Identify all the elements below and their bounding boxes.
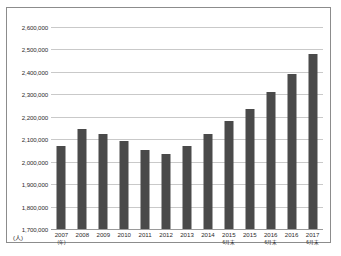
x-axis-tick-label: 20166月末 (264, 231, 278, 246)
x-axis-tick-label: 20176月末 (306, 231, 320, 246)
x-axis-year: 2017 (306, 231, 320, 239)
y-axis-tick-label: 2,500,000 (22, 46, 48, 53)
bar (308, 54, 317, 229)
y-axis-tick-label: 2,100,000 (22, 136, 48, 143)
y-axis-tick-label: 2,300,000 (22, 91, 48, 98)
y-axis-tick-labels: 2,600,0002,500,0002,400,0002,300,0002,20… (7, 27, 48, 229)
bar (245, 109, 254, 229)
y-axis-tick-label: 1,800,000 (22, 203, 48, 210)
y-axis-tick-label: 1,900,000 (22, 181, 48, 188)
x-axis-sublabel: 6月末 (264, 239, 278, 246)
y-axis-tick-label: 1,700,000 (22, 226, 48, 233)
bar (78, 129, 87, 229)
x-axis-tick-label: 2015 (243, 231, 257, 239)
bar-column (239, 27, 260, 229)
x-axis-tick-label: 2016 (285, 231, 299, 239)
x-axis-year: 2013 (180, 231, 194, 239)
bar (224, 121, 233, 229)
y-axis-tick-label: 2,600,000 (22, 24, 48, 31)
x-axis-sublabel: (年) (55, 239, 69, 246)
bar-column (156, 27, 177, 229)
bar-column (177, 27, 198, 229)
x-axis-line (51, 229, 323, 230)
x-axis-tick-label: 2013 (180, 231, 194, 239)
bar (120, 141, 129, 229)
bar-column (281, 27, 302, 229)
bar-column (93, 27, 114, 229)
x-axis-tick-labels: 2007(年)200820092010201120122013201420156… (51, 231, 323, 253)
bar-column (260, 27, 281, 229)
x-axis-year: 2011 (139, 231, 152, 239)
bar-column (197, 27, 218, 229)
x-axis-sublabel: 6月末 (306, 239, 320, 246)
x-axis-year: 2010 (117, 231, 131, 239)
bar-column (51, 27, 72, 229)
bar (287, 74, 296, 229)
y-axis-unit-label: (人) (13, 233, 23, 242)
y-axis-tick-label: 2,000,000 (22, 158, 48, 165)
x-axis-tick-label: 2008 (76, 231, 90, 239)
bar-column (135, 27, 156, 229)
bar (182, 146, 191, 229)
bar (266, 92, 275, 229)
x-axis-tick-label: 2011 (139, 231, 152, 239)
x-axis-tick-label: 2007(年) (55, 231, 69, 246)
x-axis-tick-label: 2009 (97, 231, 111, 239)
y-axis-tick-label: 2,200,000 (22, 113, 48, 120)
chart-card: 2,600,0002,500,0002,400,0002,300,0002,20… (6, 7, 331, 243)
plot-area (51, 27, 323, 229)
bar (162, 154, 171, 229)
x-axis-year: 2015 (243, 231, 257, 239)
x-axis-tick-label: 2014 (201, 231, 215, 239)
x-axis-tick-label: 2010 (117, 231, 131, 239)
x-axis-year: 2015 (222, 231, 236, 239)
bar (99, 134, 108, 229)
x-axis-tick-label: 20156月末 (222, 231, 236, 246)
bar-column (218, 27, 239, 229)
bar-series (51, 27, 323, 229)
y-axis-tick-label: 2,400,000 (22, 68, 48, 75)
x-axis-year: 2016 (285, 231, 299, 239)
x-axis-year: 2014 (201, 231, 215, 239)
x-axis-year: 2009 (97, 231, 111, 239)
bar (203, 134, 212, 229)
x-axis-tick-label: 2012 (159, 231, 173, 239)
x-axis-year: 2012 (159, 231, 173, 239)
bar (57, 146, 66, 229)
x-axis-year: 2007 (55, 231, 69, 239)
x-axis-sublabel: 6月末 (222, 239, 236, 246)
bar-column (114, 27, 135, 229)
bar-column (72, 27, 93, 229)
bar-column (302, 27, 323, 229)
bar (141, 150, 150, 229)
x-axis-year: 2016 (264, 231, 278, 239)
x-axis-year: 2008 (76, 231, 90, 239)
